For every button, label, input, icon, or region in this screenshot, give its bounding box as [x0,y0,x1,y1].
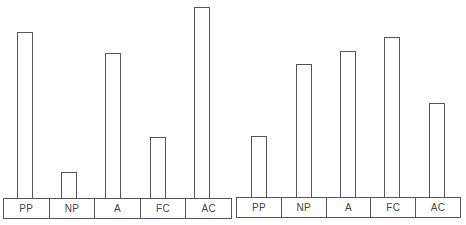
bar-chart-right: PPNPAFCAC [0,0,466,225]
bar-np [296,64,312,198]
bar-a [340,51,356,198]
bar-ac [429,103,445,198]
category-label-fc: FC [371,198,416,217]
category-label-a: A [327,198,372,217]
category-label-ac: AC [416,198,460,217]
category-label-pp: PP [237,198,282,217]
bar-pp [251,136,267,198]
bar-fc [384,37,400,198]
category-label-np: NP [282,198,327,217]
category-axis-box: PPNPAFCAC [236,197,461,218]
